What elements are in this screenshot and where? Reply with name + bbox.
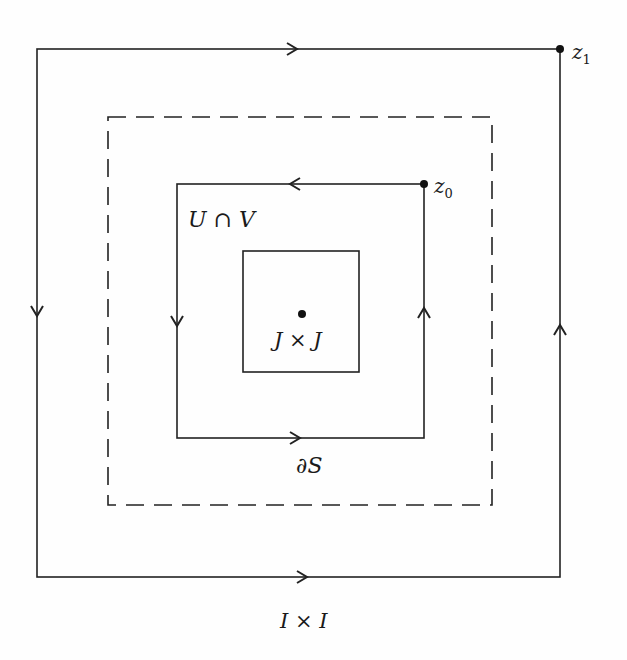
label-z1: z1 bbox=[572, 40, 591, 67]
center-point bbox=[298, 310, 306, 318]
point-z0 bbox=[420, 180, 428, 188]
label-i-x-i: I × I bbox=[280, 609, 328, 633]
label-boundary-s: ∂S bbox=[296, 453, 322, 478]
diagram-canvas: z1 z0 U ∩ V J × J ∂S I × I bbox=[0, 0, 627, 660]
point-z1 bbox=[556, 45, 564, 53]
label-z1-main: z bbox=[572, 40, 583, 64]
label-u-cap-v: U ∩ V bbox=[188, 207, 255, 232]
label-z0-sub: 0 bbox=[445, 186, 453, 201]
label-z0: z0 bbox=[434, 174, 453, 201]
label-j-x-j: J × J bbox=[274, 328, 322, 352]
label-z1-sub: 1 bbox=[583, 52, 591, 67]
label-z0-main: z bbox=[434, 174, 445, 198]
